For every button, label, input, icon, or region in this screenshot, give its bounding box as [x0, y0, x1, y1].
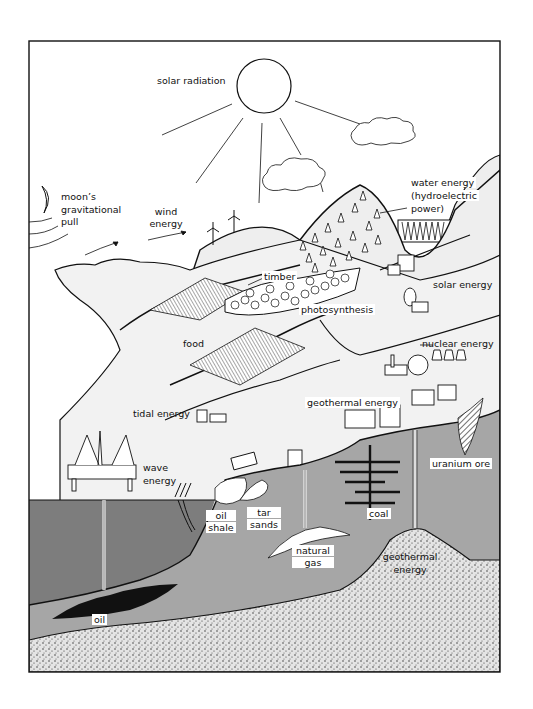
- sun-icon: [237, 59, 291, 113]
- label-geothermal-deep-line2: energy: [380, 564, 440, 575]
- label-uranium-ore: uranium ore: [430, 458, 492, 469]
- label-natural-gas-line2: gas: [292, 557, 334, 568]
- label-food: food: [183, 338, 204, 349]
- label-solar-radiation: solar radiation: [157, 75, 226, 86]
- label-natural-gas-line1: natural: [292, 545, 334, 556]
- label-water-line2: (hydroelectric: [409, 190, 479, 201]
- label-oil-shale-line2: shale: [206, 522, 236, 533]
- label-wind-line2: energy: [146, 218, 186, 229]
- label-coal: coal: [367, 508, 391, 519]
- label-solar-energy: solar energy: [433, 279, 492, 290]
- label-moon-line3: pull: [61, 216, 78, 227]
- label-nuclear-energy: nuclear energy: [422, 338, 494, 349]
- label-oil: oil: [92, 614, 107, 625]
- label-oil-shale-line1: oil: [206, 510, 236, 521]
- label-wave-line2: energy: [143, 475, 176, 486]
- label-wave-line1: wave: [143, 462, 168, 473]
- label-tidal-energy: tidal energy: [133, 408, 190, 419]
- label-photosynthesis: photosynthesis: [299, 304, 375, 315]
- label-moon-line2: gravitational: [61, 204, 121, 215]
- label-moon-line1: moon’s: [61, 191, 96, 202]
- label-wind-line1: wind: [146, 206, 186, 217]
- label-timber: timber: [262, 271, 297, 282]
- label-geothermal-deep-line1: geothermal: [380, 551, 440, 562]
- label-geothermal-energy: geothermal energy: [305, 397, 400, 408]
- label-tar-sands-line2: sands: [247, 519, 281, 530]
- energy-diagram: [0, 0, 533, 709]
- label-water-line1: water energy: [409, 177, 476, 188]
- label-water-line3: power): [409, 203, 446, 214]
- label-tar-sands-line1: tar: [247, 507, 281, 518]
